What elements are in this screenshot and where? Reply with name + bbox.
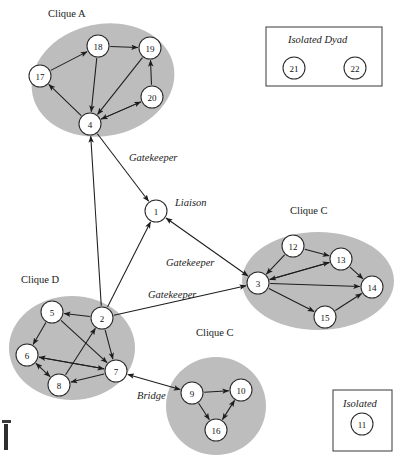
node-label-10: 10 xyxy=(237,386,247,396)
role-label-4: Bridge xyxy=(137,390,166,401)
node-label-3: 3 xyxy=(256,279,261,289)
box-label-isolated-dyad: Isolated Dyad xyxy=(288,34,347,45)
node-label-12: 12 xyxy=(289,242,298,252)
node-2: 2 xyxy=(91,307,113,329)
node-label-11: 11 xyxy=(358,420,367,430)
node-label-21: 21 xyxy=(290,64,299,74)
node-label-1: 1 xyxy=(154,207,159,217)
role-label-2: Gatekeeper xyxy=(166,257,214,268)
node-label-9: 9 xyxy=(190,389,195,399)
node-20: 20 xyxy=(141,86,163,108)
page-corner-artifact xyxy=(4,424,8,450)
edge-2-to-1 xyxy=(108,222,151,307)
node-label-6: 6 xyxy=(25,351,30,361)
node-14: 14 xyxy=(361,276,383,298)
node-label-17: 17 xyxy=(36,72,46,82)
edge-4-to-1 xyxy=(97,134,148,202)
node-label-7: 7 xyxy=(114,367,119,377)
node-label-15: 15 xyxy=(321,313,331,323)
node-9: 9 xyxy=(181,382,203,404)
node-6: 6 xyxy=(16,344,38,366)
node-label-8: 8 xyxy=(57,381,62,391)
node-label-2: 2 xyxy=(100,314,105,324)
node-7: 7 xyxy=(105,360,127,382)
cluster-label-3: Clique C xyxy=(196,327,234,338)
node-12: 12 xyxy=(282,235,304,257)
node-label-4: 4 xyxy=(88,120,93,130)
node-13: 13 xyxy=(330,248,352,270)
node-4: 4 xyxy=(79,113,101,135)
cluster-label-1: Clique C xyxy=(290,205,328,216)
node-16: 16 xyxy=(205,419,227,441)
node-label-19: 19 xyxy=(146,44,156,54)
node-label-22: 22 xyxy=(351,64,360,74)
node-19: 19 xyxy=(139,37,161,59)
role-label-3: Gatekeeper xyxy=(148,289,196,300)
cluster-label-2: Clique D xyxy=(21,274,59,285)
node-label-5: 5 xyxy=(50,308,55,318)
role-label-1: Liaison xyxy=(175,197,207,208)
box-label-isolated: Isolated xyxy=(343,398,377,409)
node-10: 10 xyxy=(230,379,252,401)
node-label-14: 14 xyxy=(368,283,378,293)
node-label-18: 18 xyxy=(94,42,104,52)
node-15: 15 xyxy=(314,306,336,328)
node-3: 3 xyxy=(247,272,269,294)
node-21: 21 xyxy=(283,57,305,79)
cluster-label-0: Clique A xyxy=(48,8,86,19)
node-label-13: 13 xyxy=(337,255,347,265)
role-label-0: Gatekeeper xyxy=(129,152,177,163)
node-label-16: 16 xyxy=(212,426,222,436)
edge-7-to-9 xyxy=(128,374,181,389)
page-corner-artifact-top xyxy=(2,420,11,423)
node-18: 18 xyxy=(87,35,109,57)
node-8: 8 xyxy=(48,374,70,396)
node-5: 5 xyxy=(41,301,63,323)
node-22: 22 xyxy=(344,57,366,79)
node-label-20: 20 xyxy=(148,93,158,103)
node-11: 11 xyxy=(351,413,373,435)
edge-2-to-4 xyxy=(91,136,102,306)
network-diagram-canvas: 17181920411213314155267891016212211 xyxy=(0,0,402,465)
node-1: 1 xyxy=(145,200,167,222)
node-17: 17 xyxy=(29,65,51,87)
